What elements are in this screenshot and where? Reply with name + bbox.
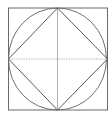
geometric-diagram bbox=[0, 0, 111, 117]
